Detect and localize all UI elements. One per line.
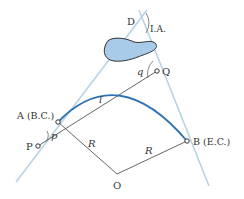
point-q-marker — [155, 69, 159, 73]
curve-diagram: D I.A. q Q l A (B.C.) p P R R B (E.C.) O — [0, 0, 244, 199]
point-b-marker — [185, 139, 189, 143]
point-p-marker — [36, 144, 40, 148]
left-tangent-line — [16, 10, 147, 182]
label-b-ec: B (E.C.) — [193, 136, 230, 147]
label-q-angle: q — [137, 66, 143, 77]
label-p-point: P — [26, 141, 33, 152]
label-arc-length: l — [99, 94, 102, 105]
label-radius-left: R — [87, 138, 96, 149]
label-p-angle: p — [51, 130, 58, 141]
label-ia: I.A. — [150, 24, 166, 34]
right-tangent-line — [139, 10, 209, 186]
label-o: O — [113, 180, 121, 191]
label-q-point: Q — [162, 66, 170, 77]
obstacle-blob — [104, 38, 156, 61]
label-d: D — [127, 16, 135, 27]
point-a-marker — [56, 120, 60, 124]
label-a-bc: A (B.C.) — [16, 110, 54, 121]
label-radius-right: R — [144, 145, 153, 156]
